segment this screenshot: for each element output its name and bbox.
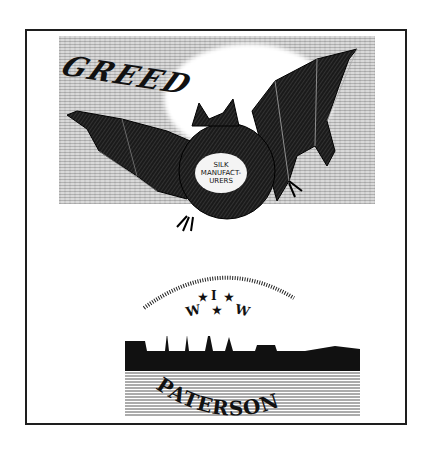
iww-emblem: ★ I ★ W ★ W: [172, 293, 262, 323]
badge-line-2: MANUFACT-: [201, 169, 241, 177]
badge-line-1: SILK: [214, 161, 229, 169]
poster-frame: GREED SILK MANUFACT- URERS ★ I ★ W: [25, 29, 407, 425]
bat-icon: [27, 31, 405, 241]
star-icon: ★: [224, 291, 234, 304]
paterson-text: PATERSON: [152, 376, 282, 421]
badge-line-3: URERS: [209, 177, 233, 185]
paterson-label: PATERSON: [147, 376, 347, 436]
emblem-letter-w1: W: [184, 301, 202, 319]
emblem-letter-i: I: [211, 289, 217, 303]
svg-text:PATERSON: PATERSON: [152, 376, 282, 421]
emblem-letter-w2: W: [233, 301, 251, 319]
star-icon: ★: [198, 291, 208, 304]
silk-manufacturers-badge: SILK MANUFACT- URERS: [195, 153, 247, 193]
star-icon: ★: [212, 304, 222, 317]
